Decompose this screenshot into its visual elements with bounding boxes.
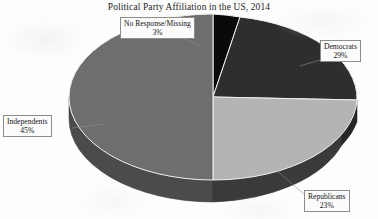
slice-label-independents-value: 45%	[7, 126, 48, 135]
pie-top-face	[69, 14, 357, 180]
slice-label-democrats-text: Democrats	[324, 42, 357, 51]
slice-label-independents[interactable]: Independents 45%	[3, 115, 52, 137]
slice-label-republicans[interactable]: Republicans 23%	[304, 190, 350, 212]
slice-label-republicans-value: 23%	[308, 201, 346, 210]
pie-slice-republicans[interactable]	[213, 97, 357, 180]
slice-label-no-response-text: No Response/Missing	[124, 19, 191, 28]
slice-label-democrats[interactable]: Democrats 29%	[320, 40, 361, 62]
slice-label-republicans-text: Republicans	[308, 192, 346, 201]
slice-label-independents-text: Independents	[7, 117, 48, 126]
chart-title: Political Party Affiliation in the US, 2…	[0, 2, 378, 12]
slice-label-no-response-value: 3%	[124, 28, 191, 37]
pie-chart-figure: Political Party Affiliation in the US, 2…	[0, 0, 378, 219]
slice-label-no-response[interactable]: No Response/Missing 3%	[120, 17, 195, 39]
slice-label-democrats-value: 29%	[324, 51, 357, 60]
